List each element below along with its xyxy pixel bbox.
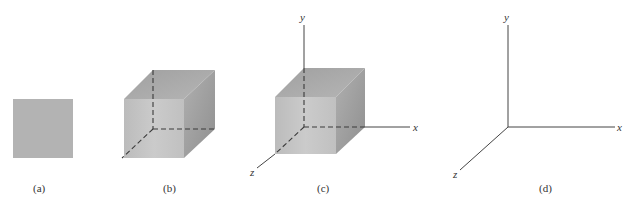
- square-shape: [13, 99, 73, 158]
- y-axis-label: y: [503, 11, 509, 23]
- panel-d-label: (d): [539, 182, 552, 195]
- x-axis-label: x: [412, 121, 418, 133]
- panel-b: (b): [122, 70, 215, 195]
- x-axis-label: x: [616, 121, 622, 133]
- z-axis: [460, 127, 508, 170]
- panel-c-label: (c): [317, 182, 330, 195]
- y-axis-label: y: [299, 11, 305, 23]
- panel-a: (a): [13, 99, 73, 195]
- panel-d: y x z (d): [452, 11, 622, 195]
- panel-c: y x z (c): [249, 11, 418, 195]
- z-axis-label: z: [249, 166, 255, 178]
- panel-b-label: (b): [163, 182, 176, 195]
- panel-a-label: (a): [33, 182, 46, 195]
- z-axis-label: z: [452, 168, 458, 180]
- figure-canvas: (a) (b) y x z (c) y: [0, 0, 641, 213]
- z-axis: [257, 154, 275, 168]
